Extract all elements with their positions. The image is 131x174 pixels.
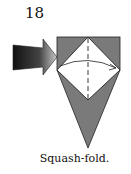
caption: Squash-fold.: [0, 152, 131, 165]
push-arrow-icon: [13, 39, 57, 75]
fold-illustration: [0, 0, 131, 174]
origami-step-diagram: 18 Squash-fold.: [0, 0, 131, 174]
